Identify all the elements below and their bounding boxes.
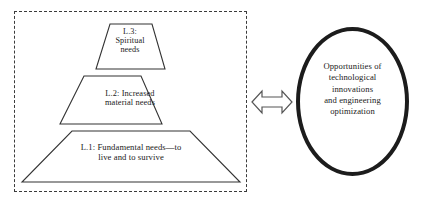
pyramid-level-3-label: L.3: Spiritual needs: [96, 27, 164, 55]
pyramid-level-1-label: L.1: Fundamental needs—to live and to su…: [40, 143, 222, 162]
pyramid-level-2-label: L.2: Increased material needs: [67, 89, 193, 108]
diagram-canvas: L.3: Spiritual needs L.2: Increased mate…: [0, 0, 431, 201]
opportunities-ellipse-label: Opportunities of technological innovatio…: [302, 61, 403, 118]
bidirectional-arrow-icon: [250, 86, 294, 118]
